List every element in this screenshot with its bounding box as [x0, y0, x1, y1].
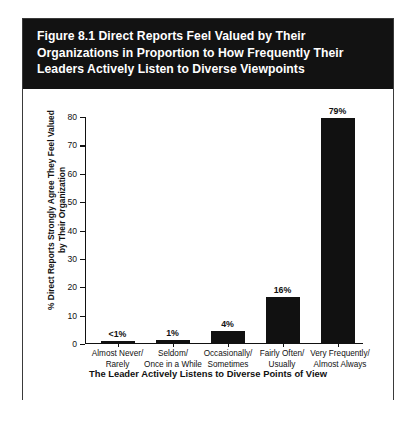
y-tick-label: 60: [67, 169, 77, 179]
bar-slot: 79%: [310, 116, 365, 343]
bar-value-label: <1%: [109, 329, 127, 339]
y-tick-label: 10: [67, 311, 77, 321]
chart-plot-panel: % Direct Reports Strongly Agree They Fee…: [23, 89, 393, 400]
bar-value-label: 1%: [166, 328, 179, 338]
y-tick-label: 50: [67, 197, 77, 207]
bar-slot: 1%: [145, 116, 200, 343]
y-tick-label: 0: [72, 339, 77, 349]
bar-slot: 4%: [200, 116, 255, 343]
bar-fairly-often-usually[interactable]: [266, 297, 300, 342]
y-tick-label: 20: [67, 282, 77, 292]
y-tick-label: 40: [67, 226, 77, 236]
bar-very-frequently-almost-always[interactable]: [321, 118, 355, 342]
y-tick-label: 30: [67, 254, 77, 264]
x-axis-line: [85, 343, 363, 344]
bar-series: <1% 1% 4% 16%: [85, 116, 363, 343]
page-title: Figure 8.1 Direct Reports Feel Valued by…: [37, 28, 379, 78]
x-category-label-4: Very Frequently/ Almost Always: [303, 349, 377, 370]
y-tick-label: 70: [67, 140, 77, 150]
figure-title-banner: Figure 8.1 Direct Reports Feel Valued by…: [23, 19, 393, 89]
x-axis-title: The Leader Actively Listens to Diverse P…: [23, 368, 393, 379]
figure-container: Figure 8.1 Direct Reports Feel Valued by…: [22, 18, 394, 400]
bar-value-label: 16%: [274, 285, 292, 295]
bar-occasionally-sometimes[interactable]: [211, 331, 245, 342]
chart-axes: 0 10 20 30 40 50: [85, 117, 363, 344]
bar-value-label: 4%: [221, 319, 234, 329]
bar-value-label: 79%: [329, 106, 347, 116]
bar-slot: <1%: [90, 116, 145, 343]
bar-slot: 16%: [255, 116, 310, 343]
y-tick-label: 80: [67, 112, 77, 122]
y-axis-title: % Direct Reports Strongly Agree They Fee…: [46, 110, 68, 310]
